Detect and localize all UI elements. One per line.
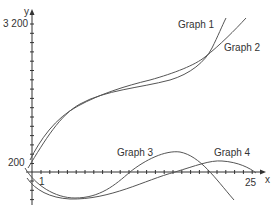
x-axis-label: x <box>265 175 270 185</box>
y-tick-label-bottom: 200 <box>8 158 25 168</box>
graph-2-label: Graph 2 <box>224 43 260 53</box>
graph-4-label: Graph 4 <box>214 148 250 158</box>
y-axis-label: y <box>24 7 29 17</box>
graph-1-curve <box>28 18 226 168</box>
y-axis-arrow-icon <box>30 9 35 15</box>
graph-3-label: Graph 3 <box>117 148 153 158</box>
graph-2-curve <box>30 18 246 160</box>
x-tick-label-first: 1 <box>39 177 45 187</box>
x-tick-label-last: 25 <box>245 178 256 188</box>
graph-4-curve <box>27 161 256 199</box>
x-axis <box>26 170 266 175</box>
y-tick-label-top: 3 200 <box>3 19 28 29</box>
graph-1-label: Graph 1 <box>178 20 214 30</box>
graph-3-curve <box>25 152 234 200</box>
